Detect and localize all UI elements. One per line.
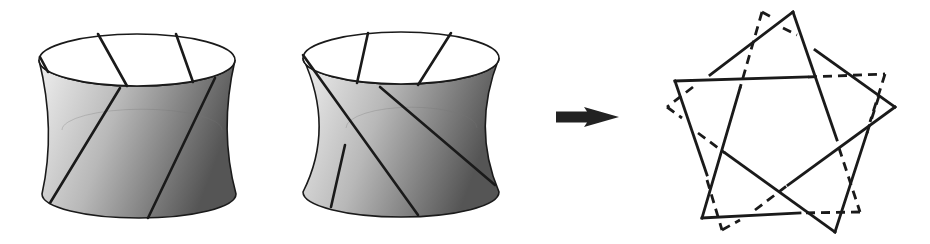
top-rim bbox=[303, 32, 499, 84]
knot-strand-solid bbox=[788, 107, 895, 185]
knot-strand-solid bbox=[675, 81, 707, 175]
knot-strand-dashed bbox=[783, 28, 797, 35]
knot-strand-dashed bbox=[667, 87, 693, 107]
hyperboloids-group bbox=[39, 32, 499, 218]
top-rim bbox=[39, 34, 235, 86]
knot-strand-dashed bbox=[667, 107, 682, 118]
knot-strand-dashed bbox=[722, 220, 740, 230]
knot-strand-dashed bbox=[839, 148, 860, 212]
diagram-canvas bbox=[0, 0, 930, 244]
left-hyperboloid bbox=[39, 34, 236, 218]
knot-strand-solid bbox=[702, 88, 740, 218]
right-arrow-icon bbox=[556, 107, 619, 127]
knot-strand-dashed bbox=[800, 212, 860, 213]
knot-strand-dashed bbox=[762, 12, 773, 18]
pentagonal-link-diagram bbox=[667, 12, 895, 232]
knot-strand-solid bbox=[675, 77, 807, 81]
diagram-stage bbox=[0, 0, 930, 244]
knot-strand-dashed bbox=[707, 180, 722, 230]
arrow-icon bbox=[556, 107, 619, 127]
right-hyperboloid bbox=[303, 32, 499, 217]
knot-strand-dashed bbox=[867, 93, 880, 133]
knot-strand-dashed bbox=[808, 74, 885, 77]
knot-strand-dashed bbox=[755, 185, 788, 210]
